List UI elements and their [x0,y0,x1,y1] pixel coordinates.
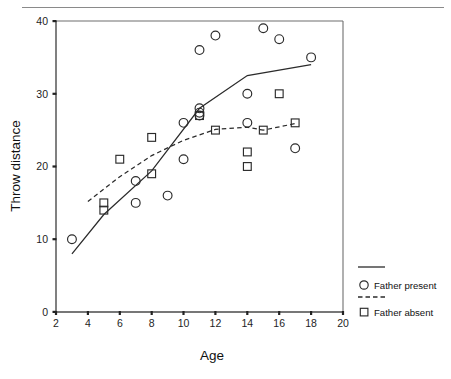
data-point [100,199,108,207]
data-point [291,119,299,127]
x-axis-ticks: 2 4 6 8 10 12 14 16 18 20 [53,311,349,329]
data-point [179,155,188,164]
data-point [68,235,77,244]
x-axis-title: Age [200,348,224,363]
x-tick-label-14: 14 [241,317,253,329]
x-tick-label-12: 12 [210,317,222,329]
legend-label-father-absent: Father absent [374,307,434,318]
data-point [163,191,172,200]
data-point [116,155,124,163]
scatter-plot: 40 30 20 10 0 2 4 6 8 10 12 14 16 18 [0,0,451,379]
y-tick-label-10: 10 [36,233,48,245]
y-tick-label-0: 0 [42,306,48,318]
trend-line-father-absent [88,124,295,202]
data-point [243,118,252,127]
data-point [275,90,283,98]
data-point [243,148,251,156]
x-tick-label-4: 4 [85,317,91,329]
x-tick-label-8: 8 [149,317,155,329]
data-point [100,206,108,214]
data-point [275,35,284,44]
x-tick-label-20: 20 [337,317,349,329]
data-point [211,31,220,40]
y-tick-label-20: 20 [36,160,48,172]
x-tick-label-18: 18 [305,317,317,329]
data-points-father-present [68,24,316,244]
y-axis-title: Throw distance [8,120,23,212]
figure-container: 40 30 20 10 0 2 4 6 8 10 12 14 16 18 [0,0,451,379]
x-tick-label-10: 10 [178,317,190,329]
x-tick-label-6: 6 [117,317,123,329]
data-point [243,163,251,171]
data-point [291,144,300,153]
data-point [131,177,140,186]
x-tick-label-2: 2 [53,317,59,329]
data-point [243,89,252,98]
data-point [131,198,140,207]
data-point [212,126,220,134]
plot-frame [56,21,343,312]
legend: Father present Father absent [358,267,437,318]
data-point [179,118,188,127]
legend-marker-square-icon [360,308,368,316]
y-tick-label-40: 40 [36,15,48,27]
data-point [307,53,316,62]
y-tick-label-30: 30 [36,88,48,100]
data-point [195,46,204,55]
data-point [259,24,268,33]
legend-label-father-present: Father present [374,280,437,291]
x-tick-label-16: 16 [273,317,285,329]
y-axis-ticks: 40 30 20 10 0 [36,15,56,318]
data-point [148,134,156,142]
legend-marker-circle-icon [360,281,368,289]
